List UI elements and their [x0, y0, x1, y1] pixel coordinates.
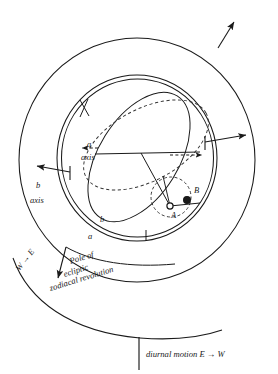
a-axis-word-label: axis — [81, 152, 95, 162]
ring-b-label: b — [100, 214, 104, 224]
b-axis-word-label: axis — [30, 195, 44, 205]
deferent-radius-line-1 — [141, 153, 170, 206]
equator-great-circle-dashed — [69, 81, 223, 208]
point-a-marker — [167, 203, 173, 209]
a-axis-line — [95, 152, 200, 154]
a-axis-letter-label: a — [87, 139, 91, 149]
point-b-marker — [184, 197, 191, 204]
diagram-canvas: a axis b axis b a A B Pole of ecliptic z… — [0, 0, 278, 374]
west-east-label: W → E — [14, 247, 36, 272]
point-a-label: A — [170, 210, 177, 220]
b-axis-arrow — [37, 166, 70, 172]
point-b-label: B — [194, 185, 199, 195]
astronomy-diagram-figure: a axis b axis b a A B Pole of ecliptic z… — [0, 0, 278, 374]
outer-sphere-rotation-arrow — [218, 22, 234, 48]
ring-a-label: a — [88, 231, 92, 241]
diurnal-motion-label: diurnal motion E → W — [146, 349, 226, 359]
zodiacal-revolution-arc — [13, 258, 222, 339]
b-axis-letter-label: b — [36, 180, 40, 190]
